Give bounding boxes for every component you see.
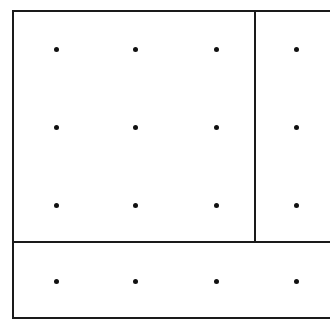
grid-dot [54, 203, 59, 208]
grid-dot [133, 125, 138, 130]
grid-dot [294, 47, 299, 52]
grid-dot [294, 203, 299, 208]
top-edge-line [13, 10, 330, 12]
grid-dot [133, 203, 138, 208]
dot-grid-diagram [0, 0, 330, 329]
grid-dot [214, 47, 219, 52]
grid-dot [133, 47, 138, 52]
grid-dot [54, 125, 59, 130]
grid-dot [214, 279, 219, 284]
grid-dot [214, 125, 219, 130]
grid-dot [54, 279, 59, 284]
grid-dot [294, 279, 299, 284]
grid-dot [54, 47, 59, 52]
horizontal-divider-line [12, 241, 330, 243]
grid-dot [133, 279, 138, 284]
bottom-edge-line [12, 317, 330, 319]
grid-dot [294, 125, 299, 130]
left-edge-line [12, 10, 14, 319]
vertical-divider-line [254, 10, 256, 243]
grid-dot [214, 203, 219, 208]
